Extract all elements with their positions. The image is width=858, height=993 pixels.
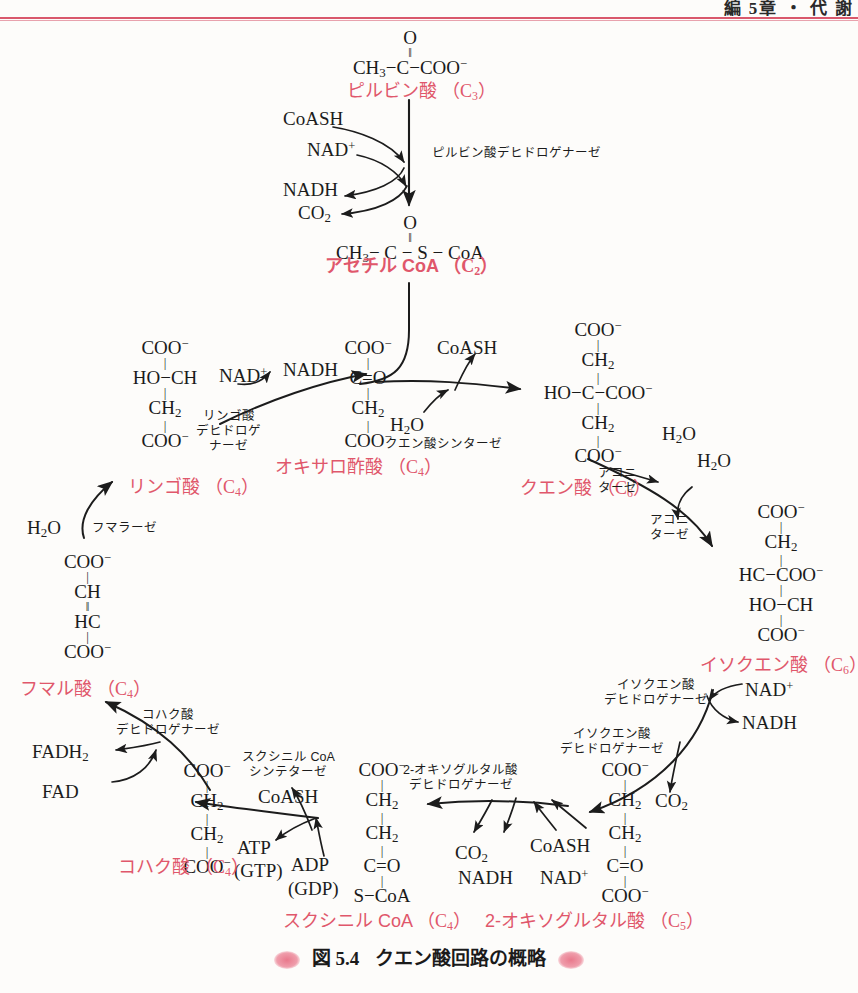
cofactor-nad-plus-mdh: NAD+ xyxy=(219,366,267,385)
header-rule-thin xyxy=(0,20,858,21)
enzyme-isocitrate-dehydrogenase-2: イソクエン酸 デヒドロゲナーゼ xyxy=(560,727,664,757)
label-pyruvate: ピルビン酸 （C3） xyxy=(347,82,496,102)
caption-ornament-left xyxy=(274,951,300,969)
enzyme-pyruvate-dehydrogenase: ピルビン酸デヒドロゲナーゼ xyxy=(432,146,601,161)
succoa-ch2-1: CH2 xyxy=(322,790,442,812)
cofactor-nad-plus-pdh: NAD+ xyxy=(307,140,355,159)
suc-ch2-2: CH2 xyxy=(152,824,262,846)
label-oxaloacetate: オキサロ酢酸 （C4） xyxy=(275,458,442,478)
succoa-s-coa: S−CoA xyxy=(322,886,442,905)
cit-ch2-top: CH2 xyxy=(528,350,668,372)
cofactor-fad: FAD xyxy=(42,782,79,801)
cofactor-coash-ogdh: CoASH xyxy=(530,836,590,855)
pyruvate-backbone: CH3−C−COO− xyxy=(310,58,510,80)
akg-ch2-1: CH2 xyxy=(570,790,680,812)
cofactor-fadh2: FADH2 xyxy=(32,742,89,764)
figure-caption: 図 5.4 クエン酸回路の概略 xyxy=(0,943,858,970)
cofactor-nadh-icdh: NADH xyxy=(742,713,797,732)
enzyme-succinate-dehydrogenase: コハク酸 デヒドロゲナーゼ xyxy=(116,708,220,738)
cofactor-h2o-fumarase: H2O xyxy=(27,518,61,540)
caption-ornament-right xyxy=(558,951,584,969)
label-acetyl-coa: アセチル CoA （C2） xyxy=(325,257,498,277)
structure-citrate: COO− | CH2 | HO−C−COO− | CH2 | COO− xyxy=(528,320,668,465)
cofactor-nadh-pdh: NADH xyxy=(283,180,338,199)
icit-coo-bottom: COO− xyxy=(706,625,856,644)
header-rule-thick xyxy=(0,17,858,19)
suc-ch2-1: CH2 xyxy=(152,791,262,813)
structure-isocitrate: COO− | CH2 | HC−COO− | HO−CH | COO− xyxy=(706,502,856,644)
cofactor-nadh-mdh: NADH xyxy=(283,360,338,379)
cofactor-nad-plus-icdh: NAD+ xyxy=(745,680,793,699)
label-fumarate: フマル酸 （C4） xyxy=(20,680,151,700)
cofactor-co2-ogdh: CO2 xyxy=(455,843,488,865)
label-2-oxoglutarate: 2-オキソグルタル酸 （C5） xyxy=(485,912,704,932)
cofactor-adp: ADP xyxy=(291,855,329,874)
label-isocitrate: イソクエン酸 （C6） xyxy=(700,656,858,676)
cofactor-coash-citrate-synthase: CoASH xyxy=(437,338,497,357)
cofactor-h2o-aconitase-in: H2O xyxy=(697,451,731,473)
label-succinate: コハク酸 （C4） xyxy=(118,858,249,878)
caption-title: クエン酸回路の概略 xyxy=(375,948,546,969)
cofactor-coash-scs: CoASH xyxy=(258,787,318,806)
structure-succinyl-coa: COO− | CH2 | CH2 | C=O | S−CoA xyxy=(322,760,442,905)
enzyme-fumarase: フマラーゼ xyxy=(92,521,157,536)
structure-fumarate: COO− | CH ‖ HC | COO− xyxy=(35,552,140,661)
akg-coo-bottom: COO− xyxy=(570,886,680,905)
label-succinyl-coa: スクシニル CoA （C4） xyxy=(283,912,471,932)
cofactor-nad-plus-ogdh: NAD+ xyxy=(540,868,588,887)
cit-ch2-bottom: CH2 xyxy=(528,413,668,435)
running-header: 編 5章 ・ 代 謝 xyxy=(554,0,854,16)
enzyme-isocitrate-dehydrogenase-1: イソクエン酸 デヒドロゲナーゼ xyxy=(604,678,708,708)
cit-coo-bottom: COO− xyxy=(528,446,668,465)
succoa-ch2-2: CH2 xyxy=(322,823,442,845)
label-malate: リンゴ酸 （C4） xyxy=(128,478,259,498)
fum-coo-bottom: COO− xyxy=(35,642,140,661)
enzyme-citrate-synthase: クエン酸シンターゼ xyxy=(385,437,502,452)
enzyme-aconitase-1: アコニ ターゼ xyxy=(598,466,637,496)
structure-pyruvate: O ‖ CH3−C−COO− xyxy=(310,28,510,80)
cofactor-h2o-aconitase-out: H2O xyxy=(662,424,696,446)
figure-page: 編 5章 ・ 代 謝 xyxy=(0,0,858,993)
cofactor-nadh-ogdh: NADH xyxy=(458,868,513,887)
enzyme-aconitase-2: アコニ ターゼ xyxy=(650,513,689,543)
cofactor-coash-pdh: CoASH xyxy=(283,109,343,128)
icit-ch2: CH2 xyxy=(706,532,856,554)
cofactor-gdp: (GDP) xyxy=(288,879,339,898)
enzyme-malate-dehydrogenase: リンゴ酸 デヒドロゲ ナーゼ xyxy=(196,409,261,453)
cofactor-h2o-citrate-synthase: H2O xyxy=(390,415,424,437)
caption-number: 図 5.4 xyxy=(312,948,360,969)
